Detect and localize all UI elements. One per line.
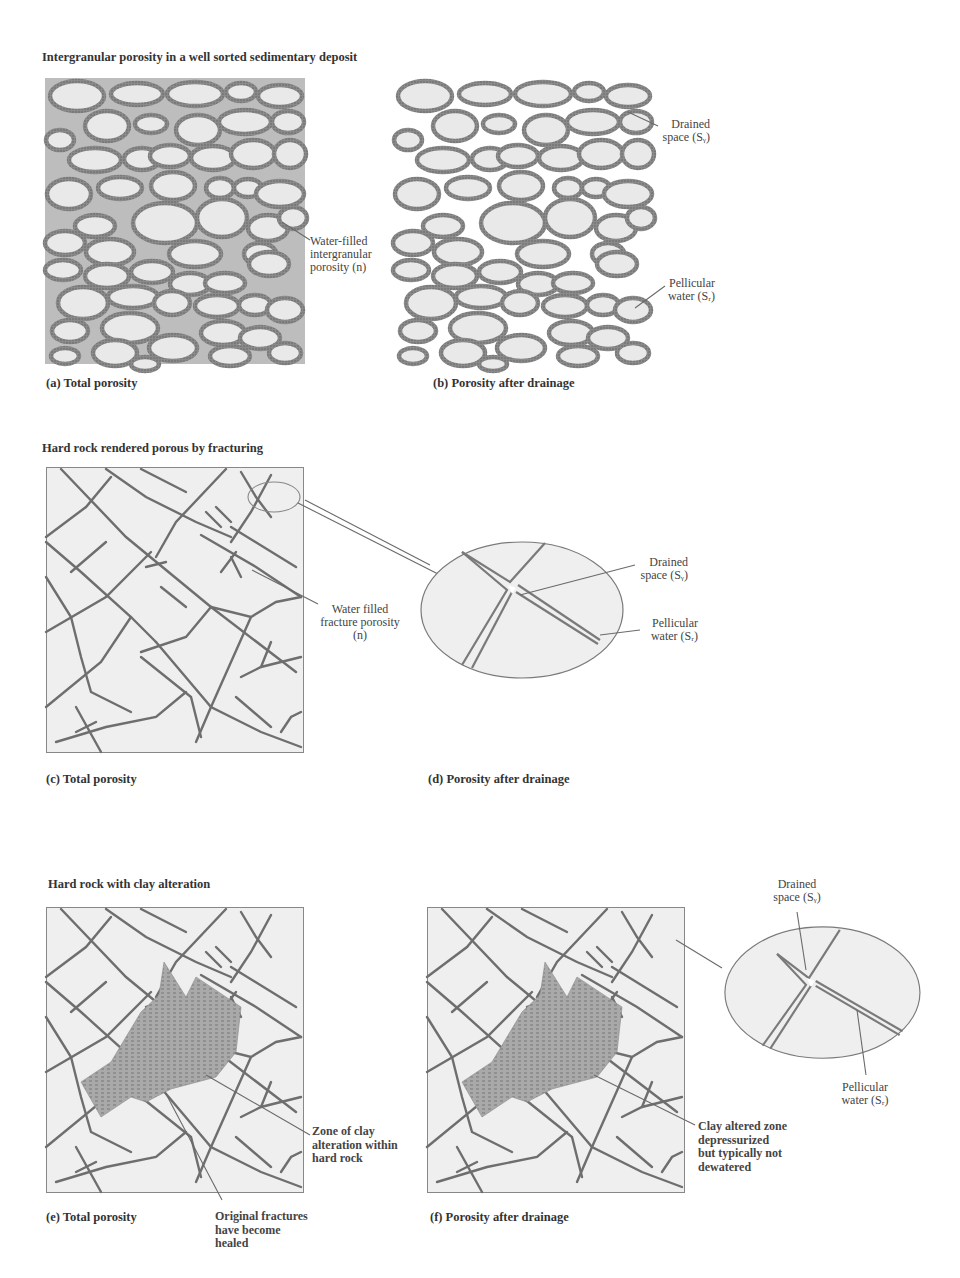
annotation-pellicular-water-f: Pellicular water (Sᵣ) <box>830 1081 900 1107</box>
annotation-drained-space-f: Drained space (Sᵧ) <box>762 878 832 904</box>
caption-f: (f) Porosity after drainage <box>430 1210 569 1225</box>
annotation-clay-altered-zone: Clay altered zone depressurized but typi… <box>698 1120 787 1174</box>
leader-lines-f <box>0 0 960 1278</box>
